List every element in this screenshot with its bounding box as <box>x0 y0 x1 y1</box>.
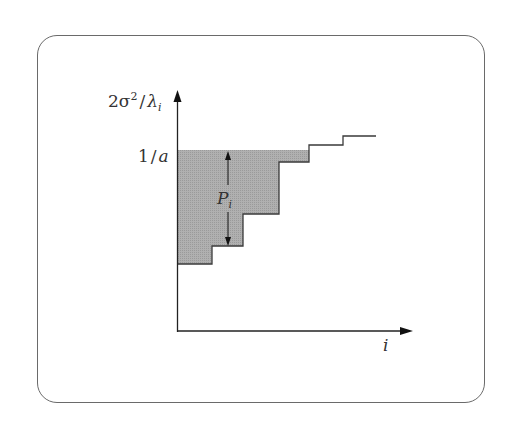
x-axis-arrow-icon <box>400 327 413 335</box>
water-level-label: 1/a <box>138 146 169 166</box>
y-axis-arrow-icon <box>174 90 182 102</box>
x-axis-label: i <box>383 335 388 355</box>
y-axis-label: 2σ2/λi <box>108 90 161 114</box>
water-filling-diagram: 2σ2/λi 1/a Pi i <box>0 0 515 434</box>
water-fill-region <box>177 150 309 264</box>
